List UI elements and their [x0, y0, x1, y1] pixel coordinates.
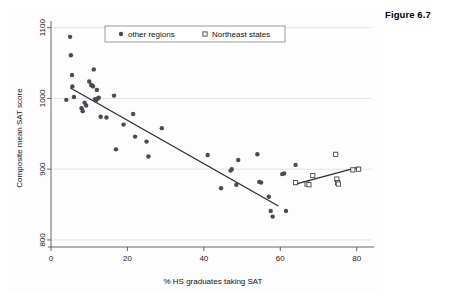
- data-point: [160, 126, 164, 130]
- x-tick-label-80: 80: [352, 254, 361, 263]
- data-point: [144, 139, 148, 143]
- data-point: [282, 171, 286, 175]
- y-tick-label-1000: 1000: [39, 89, 48, 107]
- x-tick-label-40: 40: [199, 254, 208, 263]
- data-point: [64, 98, 68, 102]
- data-point: [357, 167, 361, 171]
- data-point: [269, 209, 273, 213]
- data-point: [284, 209, 288, 213]
- data-point: [259, 180, 263, 184]
- data-point: [70, 73, 74, 77]
- data-point: [293, 163, 297, 167]
- y-axis-title: Composite mean SAT score: [15, 88, 24, 188]
- data-point: [334, 152, 338, 156]
- figure-caption: Figure 6.7: [385, 10, 453, 20]
- y-tick-label-900: 900: [39, 162, 48, 176]
- data-point: [114, 147, 118, 151]
- figure-container: 80090010001100020406080 other regionsNor…: [0, 0, 456, 298]
- data-point: [69, 53, 73, 57]
- legend-label-northeast-states[interactable]: Northeast states: [212, 30, 270, 39]
- scatter-plot-panel: 80090010001100020406080 other regionsNor…: [8, 8, 383, 290]
- data-point: [91, 84, 95, 88]
- x-axis-title: % HS graduates taking SAT: [163, 277, 262, 286]
- data-point: [230, 167, 234, 171]
- data-point: [307, 183, 311, 187]
- other-regions-fit: [70, 88, 278, 206]
- legend-marker-open-square-icon: [203, 32, 207, 36]
- data-point: [311, 173, 315, 177]
- gridlines-group: [51, 28, 372, 240]
- tick-labels-group: 80090010001100020406080: [39, 19, 362, 263]
- scatter-chart: 80090010001100020406080 other regionsNor…: [8, 8, 383, 290]
- data-point: [72, 95, 76, 99]
- data-point: [219, 186, 223, 190]
- y-tick-label-1100: 1100: [39, 19, 48, 37]
- data-point: [234, 183, 238, 187]
- data-point: [68, 35, 72, 39]
- data-point: [84, 103, 88, 107]
- data-point: [270, 214, 274, 218]
- data-point: [98, 115, 102, 119]
- x-tick-label-60: 60: [276, 254, 285, 263]
- x-tick-label-0: 0: [49, 254, 54, 263]
- data-point: [255, 152, 259, 156]
- data-point: [97, 96, 101, 100]
- data-point: [95, 88, 99, 92]
- data-point: [121, 122, 125, 126]
- northeast-states-fit: [296, 167, 359, 184]
- data-point: [236, 158, 240, 162]
- data-point: [351, 168, 355, 172]
- data-point: [81, 109, 85, 113]
- data-point: [133, 134, 137, 138]
- data-point: [336, 182, 340, 186]
- data-point: [205, 153, 209, 157]
- legend-marker-filled-circle-icon: [119, 32, 123, 36]
- data-point: [131, 112, 135, 116]
- chart-legend[interactable]: other regionsNortheast states: [105, 26, 285, 42]
- y-tick-label-800: 800: [39, 233, 48, 247]
- data-point: [104, 115, 108, 119]
- data-point: [293, 181, 297, 185]
- data-point: [112, 93, 116, 97]
- axes-group: [47, 21, 374, 251]
- legend-label-other-regions[interactable]: other regions: [128, 30, 175, 39]
- data-point: [267, 195, 271, 199]
- regression-lines-group: [70, 88, 359, 206]
- data-point: [92, 67, 96, 71]
- x-tick-label-20: 20: [123, 254, 132, 263]
- data-point: [146, 154, 150, 158]
- series-other-regions-points: [64, 35, 298, 219]
- data-point: [70, 84, 74, 88]
